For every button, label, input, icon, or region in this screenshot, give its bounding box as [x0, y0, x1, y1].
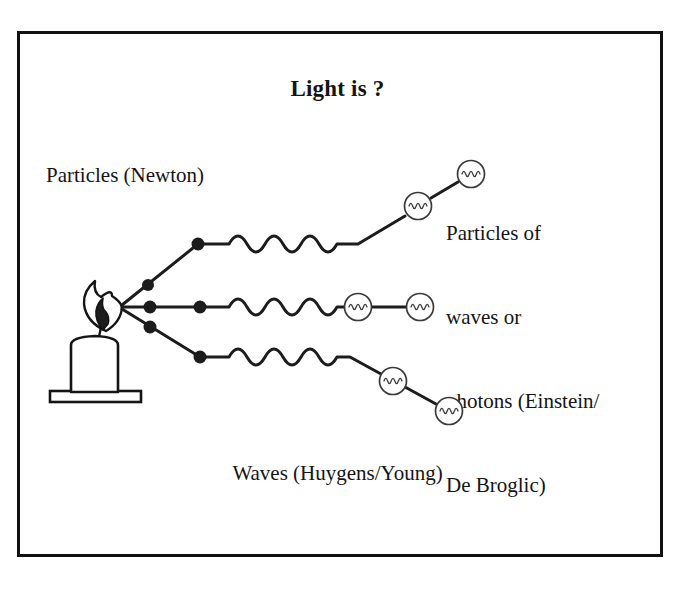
label-right-line-2: waves or	[446, 303, 599, 331]
label-right-line-1: Particles of	[446, 219, 599, 247]
page-title: Light is ?	[0, 76, 675, 102]
slide-canvas: Light is ? Particles (Newton) Particles …	[0, 0, 675, 595]
label-particles-newton: Particles (Newton)	[46, 163, 204, 188]
label-waves-huygens-young: Waves (Huygens/Young)	[0, 461, 675, 486]
label-right-line-3: photons (Einstein/	[446, 387, 599, 415]
label-particles-of-waves-photons: Particles of waves or photons (Einstein/…	[446, 163, 599, 555]
